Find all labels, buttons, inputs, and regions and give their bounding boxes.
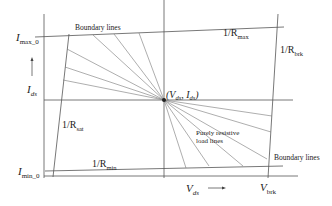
vds-arrow-head [222,187,226,190]
operating-point-label: (Vds, Ids) [166,89,199,101]
load-lines-label-2: load lines [196,137,223,145]
imax-label: Imax_0 [15,31,39,46]
boundary-lines-label-top: Boundary lines [75,23,121,32]
rbrk-label: 1/Rbrk [280,44,304,57]
rsat-label: 1/Rsat [62,119,84,132]
vbrk-label: Vbrk [260,181,277,196]
load-lines-upper [63,33,164,100]
load-lines-label-1: Purely resistive [196,129,239,137]
boundary-line-rsat [53,34,69,177]
rmax-label: 1/Rmax [223,27,249,40]
boundary-lines-label-bottom: Boundary lines [274,153,320,162]
ids-arrow-head [31,57,34,61]
vds-label: Vds [186,182,199,197]
rmin-label: 1/Rmin [92,158,117,171]
ids-label: Ids [26,83,37,98]
imin-label: Imin_0 [17,165,40,180]
load-line-diagram: Boundary lines Boundary lines Imax_0 Imi… [0,0,332,206]
